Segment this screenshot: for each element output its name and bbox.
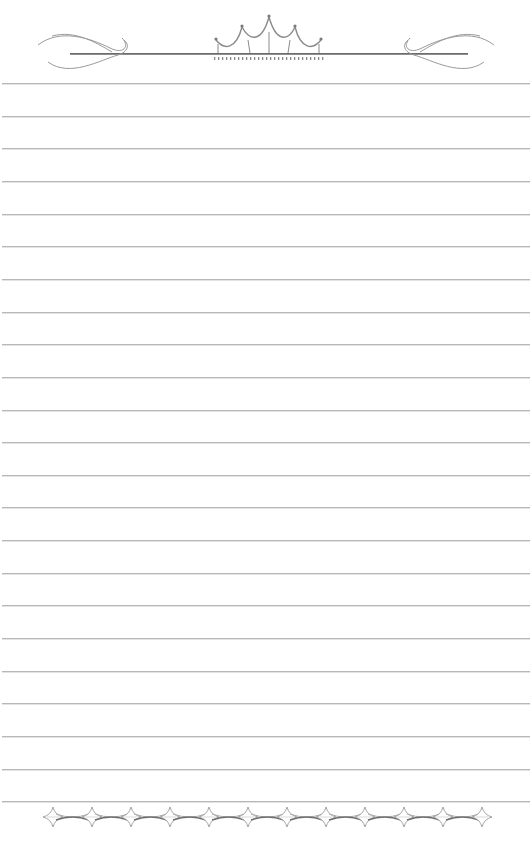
ruled-lines [0, 0, 532, 866]
ruled-line [2, 703, 530, 704]
ruled-line [2, 507, 530, 508]
ruled-line [2, 116, 530, 117]
ruled-line [2, 83, 530, 84]
ruled-line [2, 736, 530, 737]
ruled-line [2, 148, 530, 149]
ruled-line [2, 181, 530, 182]
ruled-line [2, 573, 530, 574]
ruled-line [2, 246, 530, 247]
ruled-line [2, 410, 530, 411]
ruled-line [2, 279, 530, 280]
ruled-line [2, 312, 530, 313]
ruled-line [2, 540, 530, 541]
ruled-line [2, 475, 530, 476]
ruled-line [2, 442, 530, 443]
ruled-line [2, 638, 530, 639]
ruled-line [2, 344, 530, 345]
ruled-line [2, 214, 530, 215]
ruled-line [2, 605, 530, 606]
ruled-line [2, 377, 530, 378]
footer-ornament [0, 800, 532, 840]
linked-diamond-border-icon [0, 800, 532, 840]
ruled-line [2, 769, 530, 770]
ruled-line [2, 671, 530, 672]
